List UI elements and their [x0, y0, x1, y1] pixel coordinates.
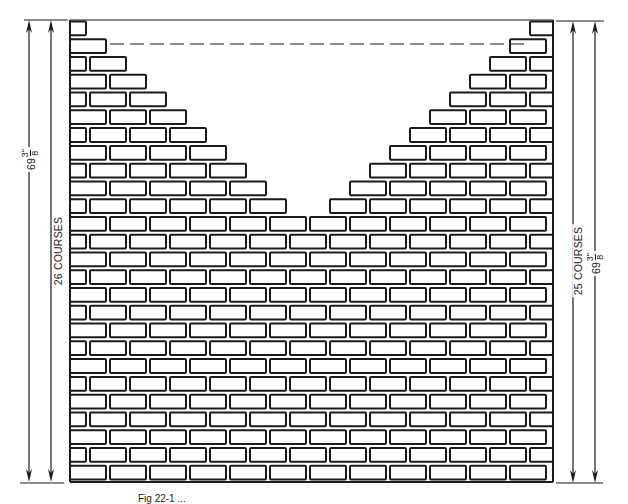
right-height-whole: 69	[589, 262, 601, 274]
figure-caption: Fig 22-1 ...	[138, 493, 186, 504]
left-height-label: 69 3" 8	[21, 147, 40, 172]
right-courses-label: 25 COURSES	[572, 225, 584, 298]
right-height-label: 69 3" 8	[586, 251, 605, 276]
left-courses-label: 26 COURSES	[52, 215, 64, 288]
left-height-whole: 69	[24, 158, 36, 170]
left-height-fraction: 3" 8	[21, 149, 40, 157]
right-height-fraction: 3" 8	[586, 253, 605, 261]
